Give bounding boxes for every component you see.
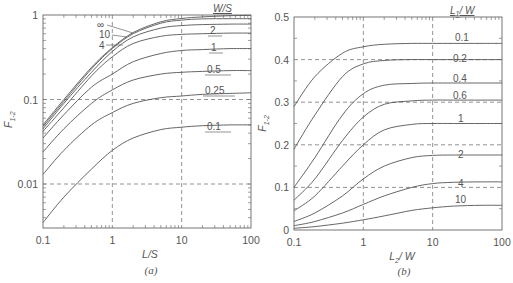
chart-a-view-factor-parallel: 0.111010010.10.01L/SF1-2(a)W/S210.50.250… xyxy=(2,3,260,277)
curve-label: 0.25 xyxy=(205,85,225,96)
y-axis-label: F1-2 xyxy=(256,115,270,132)
curve-label: 0.6 xyxy=(453,90,467,101)
curve-label: 0.4 xyxy=(453,73,467,84)
caption-a: (a) xyxy=(145,264,158,277)
y-tick-label: 0.01 xyxy=(18,178,39,190)
y-tick-label: 0.5 xyxy=(274,11,289,23)
y-tick-label: 0.3 xyxy=(274,96,289,108)
y-tick-label: 1 xyxy=(32,9,38,21)
legend-title-b: L1/ W xyxy=(450,5,476,17)
chart-b-view-factor-perpendicular: 0.111010000.10.20.30.40.5L2/ WF1-2(b)L1/… xyxy=(256,5,511,278)
x-tick-label: 1 xyxy=(109,234,115,246)
x-axis-label: L/S xyxy=(142,248,158,260)
y-tick-label: 0.1 xyxy=(23,94,38,106)
curve-label: 2 xyxy=(210,25,216,36)
y-tick-label: 0.1 xyxy=(274,181,289,193)
x-tick-label: 10 xyxy=(176,234,188,246)
curve-l1w-4 xyxy=(294,182,502,226)
caption-b: (b) xyxy=(398,265,411,278)
curve-label: 0.1 xyxy=(455,32,469,43)
y-tick-label: 0.4 xyxy=(274,54,289,66)
curve-label: 4 xyxy=(458,178,464,189)
curve-label: 10 xyxy=(455,194,467,205)
curve-ws-2 xyxy=(43,33,251,131)
curve-label: 0.1 xyxy=(207,121,221,132)
figure: 0.111010010.10.01L/SF1-2(a)W/S210.50.250… xyxy=(0,0,513,283)
curve-label: 10 xyxy=(99,29,111,40)
y-tick-label: 0.2 xyxy=(274,139,289,151)
y-axis-label: F1-2 xyxy=(2,111,16,128)
curve-label: 0.2 xyxy=(453,53,467,64)
x-tick-label: 100 xyxy=(242,234,260,246)
curve-label: 1 xyxy=(211,42,217,53)
x-tick-label: 1 xyxy=(360,236,366,248)
x-tick-label: 0.1 xyxy=(287,236,302,248)
curve-l1w-1 xyxy=(294,123,502,210)
curve-label: 4 xyxy=(99,40,105,51)
x-tick-label: 100 xyxy=(493,236,511,248)
curve-label: 1 xyxy=(458,113,464,124)
curve-label: 0.5 xyxy=(207,64,221,75)
curve-l1w-0.2 xyxy=(294,60,502,150)
x-tick-label: 10 xyxy=(427,236,439,248)
curve-l1w-0.4 xyxy=(294,83,502,187)
x-tick-label: 0.1 xyxy=(36,234,51,246)
curve-l1w-0.1 xyxy=(294,43,502,106)
legend-title-a: W/S xyxy=(213,3,232,14)
x-axis-label: L2/ W xyxy=(389,250,416,264)
y-tick-label: 0 xyxy=(283,224,289,236)
curve-l1w-10 xyxy=(294,205,502,228)
curve-label: 2 xyxy=(458,149,464,160)
